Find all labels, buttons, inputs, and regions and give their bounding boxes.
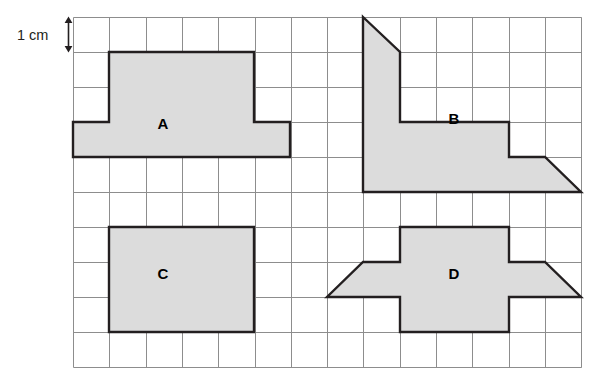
scale-arrow-head-up	[65, 17, 73, 24]
shape-d-label: D	[449, 265, 460, 282]
scale-arrow-head-down	[65, 46, 73, 53]
worksheet-figure: 1 cm ABCD	[0, 0, 609, 385]
shape-b-label: B	[449, 110, 460, 127]
shape-a	[73, 52, 290, 157]
scale-label: 1 cm	[17, 27, 48, 43]
shape-c	[109, 227, 254, 332]
shape-c-label: C	[158, 265, 169, 282]
shape-a-label: A	[158, 115, 169, 132]
grid-area-diagram: 1 cm ABCD	[0, 0, 609, 385]
scale-arrow-icon	[65, 17, 73, 53]
